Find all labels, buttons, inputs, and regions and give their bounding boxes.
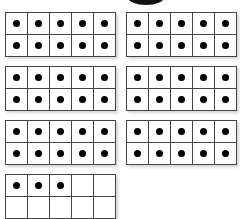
frame-cell [6, 89, 28, 111]
dot-icon [178, 128, 185, 135]
dot-icon [79, 42, 86, 49]
dot-icon [35, 20, 42, 27]
frame-cell [6, 143, 28, 165]
dot-icon [13, 96, 20, 103]
frame-cell [94, 143, 116, 165]
dot-icon [156, 96, 163, 103]
frame-cell [6, 197, 28, 219]
frame-cell [171, 121, 193, 143]
frame-cell [127, 143, 149, 165]
dot-icon [200, 74, 207, 81]
frame-cell [149, 89, 171, 111]
frame-cell [193, 13, 215, 35]
dot-icon [178, 74, 185, 81]
dot-icon [79, 96, 86, 103]
dot-icon [35, 74, 42, 81]
frame-cell [28, 35, 50, 57]
dot-icon [101, 20, 108, 27]
frame-cell [94, 175, 116, 197]
dot-icon [101, 150, 108, 157]
dot-icon [13, 182, 20, 189]
frame-cell [171, 13, 193, 35]
ten-frame-7 [5, 174, 116, 219]
frame-cell [149, 35, 171, 57]
ten-frame-4 [126, 66, 237, 111]
frame-cell [215, 35, 237, 57]
dot-icon [57, 74, 64, 81]
dot-icon [79, 150, 86, 157]
frame-cell [50, 121, 72, 143]
dot-icon [13, 42, 20, 49]
frame-cell [72, 35, 94, 57]
dot-icon [35, 182, 42, 189]
dot-icon [222, 20, 229, 27]
frame-cell [28, 13, 50, 35]
frame-cell [94, 197, 116, 219]
frame-cell [72, 121, 94, 143]
dot-icon [222, 128, 229, 135]
dot-icon [79, 20, 86, 27]
dark-ellipse-shape [128, 0, 164, 5]
dot-icon [134, 74, 141, 81]
dot-icon [222, 150, 229, 157]
dot-icon [57, 20, 64, 27]
frame-cell [94, 35, 116, 57]
dot-icon [101, 128, 108, 135]
frame-cell [171, 67, 193, 89]
frame-cell [72, 13, 94, 35]
frame-cell [50, 67, 72, 89]
frame-cell [127, 67, 149, 89]
frame-cell [94, 89, 116, 111]
dot-icon [222, 96, 229, 103]
dot-icon [178, 42, 185, 49]
dot-icon [101, 74, 108, 81]
dot-icon [13, 74, 20, 81]
frame-cell [215, 89, 237, 111]
frame-cell [94, 67, 116, 89]
dot-icon [156, 42, 163, 49]
frame-cell [193, 121, 215, 143]
dot-icon [57, 96, 64, 103]
dot-icon [35, 128, 42, 135]
ten-frame-5 [5, 120, 116, 165]
dot-icon [200, 128, 207, 135]
frame-cell [72, 197, 94, 219]
frame-cell [28, 121, 50, 143]
dot-icon [156, 150, 163, 157]
frame-cell [50, 143, 72, 165]
frame-cell [72, 175, 94, 197]
frame-cell [28, 175, 50, 197]
dot-icon [57, 128, 64, 135]
dot-icon [134, 20, 141, 27]
ten-frame-1 [5, 12, 116, 57]
frame-cell [149, 13, 171, 35]
dot-icon [156, 128, 163, 135]
dot-icon [200, 96, 207, 103]
dot-icon [35, 42, 42, 49]
frame-cell [215, 121, 237, 143]
dot-icon [156, 74, 163, 81]
frame-cell [171, 143, 193, 165]
dot-icon [156, 20, 163, 27]
frame-cell [193, 67, 215, 89]
frame-cell [50, 175, 72, 197]
frame-cell [72, 67, 94, 89]
frame-cell [28, 67, 50, 89]
dot-icon [200, 42, 207, 49]
dot-icon [134, 96, 141, 103]
dot-icon [79, 74, 86, 81]
dot-icon [13, 128, 20, 135]
dot-icon [222, 42, 229, 49]
frame-cell [171, 35, 193, 57]
dot-icon [101, 96, 108, 103]
dot-icon [178, 96, 185, 103]
frame-cell [127, 13, 149, 35]
frame-cell [6, 13, 28, 35]
frame-cell [6, 175, 28, 197]
dot-icon [57, 182, 64, 189]
frame-cell [72, 89, 94, 111]
dot-icon [101, 42, 108, 49]
dot-icon [200, 20, 207, 27]
frame-cell [72, 143, 94, 165]
dot-icon [134, 128, 141, 135]
